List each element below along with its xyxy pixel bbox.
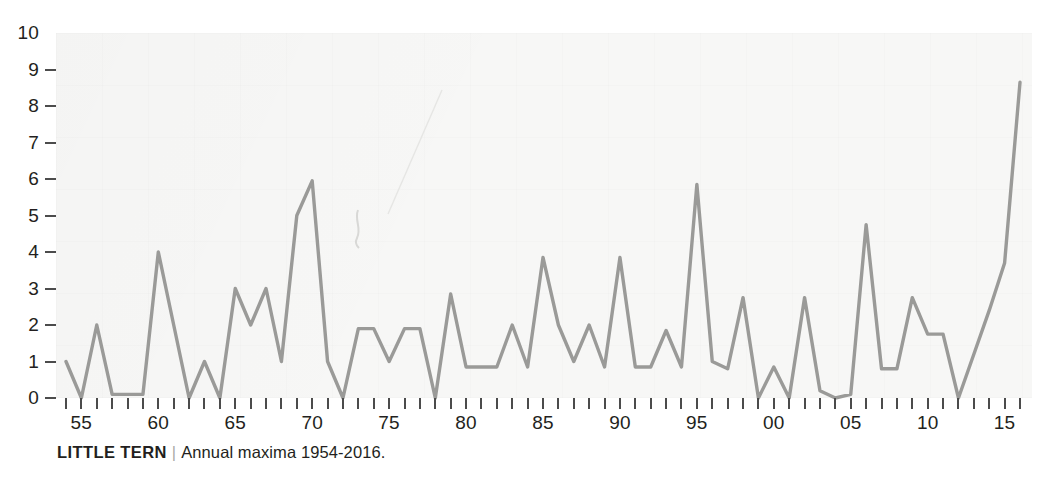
- little-tern-annual-maxima-figure: 109876543210 55606570758085909500051015 …: [0, 0, 1040, 481]
- y-axis-tick-dash: [45, 215, 56, 217]
- x-axis: 55606570758085909500051015: [56, 398, 1032, 438]
- y-axis-tick-8: 8: [28, 97, 56, 115]
- x-axis-label-15: 15: [994, 412, 1016, 434]
- x-axis-tick-2010: [927, 398, 929, 409]
- x-axis-tick-1959: [142, 398, 144, 409]
- x-axis-tick-1958: [127, 398, 129, 409]
- x-axis-tick-2008: [896, 398, 898, 409]
- x-axis-tick-1999: [757, 398, 759, 409]
- plot-area: [56, 33, 1032, 398]
- x-axis-tick-1957: [111, 398, 113, 409]
- y-axis-tick-dash: [45, 397, 56, 399]
- x-axis-tick-1954: [65, 398, 67, 409]
- x-axis-label-00: 00: [763, 412, 785, 434]
- x-axis-tick-1983: [511, 398, 513, 409]
- x-axis-tick-1992: [650, 398, 652, 409]
- x-axis-tick-1962: [188, 398, 190, 409]
- y-axis-tick-dash: [45, 69, 56, 71]
- y-axis-tick-label: 8: [28, 97, 39, 115]
- x-axis-tick-2015: [1004, 398, 1006, 409]
- x-axis-tick-1991: [634, 398, 636, 409]
- y-axis-tick-5: 5: [28, 207, 56, 225]
- x-axis-tick-1976: [404, 398, 406, 409]
- x-axis-tick-2001: [788, 398, 790, 409]
- x-axis-tick-1972: [342, 398, 344, 409]
- x-axis-tick-1988: [588, 398, 590, 409]
- y-axis-tick-1: 1: [28, 353, 56, 371]
- y-axis-tick-label: 1: [28, 353, 39, 371]
- x-axis-tick-1973: [357, 398, 359, 409]
- y-axis-tick-7: 7: [28, 134, 56, 152]
- y-axis-tick-4: 4: [28, 243, 56, 261]
- y-axis-tick-9: 9: [28, 61, 56, 79]
- x-axis-tick-1989: [604, 398, 606, 409]
- x-axis-tick-1955: [80, 398, 82, 409]
- y-axis-tick-dash: [45, 32, 56, 34]
- x-axis-tick-1960: [157, 398, 159, 409]
- y-axis-tick-3: 3: [28, 280, 56, 298]
- y-axis-tick-label: 5: [28, 207, 39, 225]
- x-axis-tick-1977: [419, 398, 421, 409]
- x-axis-tick-1965: [234, 398, 236, 409]
- x-axis-label-60: 60: [148, 412, 170, 434]
- x-axis-label-70: 70: [301, 412, 323, 434]
- x-axis-label-85: 85: [532, 412, 554, 434]
- series-line-little-tern: [66, 82, 1020, 398]
- x-axis-tick-2002: [804, 398, 806, 409]
- y-axis-tick-dash: [45, 288, 56, 290]
- x-axis-tick-2016: [1019, 398, 1021, 409]
- x-axis-label-05: 05: [840, 412, 862, 434]
- y-axis-tick-label: 0: [28, 389, 39, 407]
- x-axis-tick-2006: [865, 398, 867, 409]
- x-axis-tick-2007: [881, 398, 883, 409]
- x-axis-tick-1968: [280, 398, 282, 409]
- caption-species: LITTLE TERN: [57, 443, 167, 461]
- x-axis-tick-2011: [942, 398, 944, 409]
- x-axis-tick-1981: [480, 398, 482, 409]
- x-axis-tick-1961: [173, 398, 175, 409]
- y-axis-tick-label: 7: [28, 134, 39, 152]
- x-axis-tick-1956: [96, 398, 98, 409]
- x-axis-tick-1984: [527, 398, 529, 409]
- x-axis-tick-2003: [819, 398, 821, 409]
- x-axis-tick-1966: [250, 398, 252, 409]
- x-axis-tick-1980: [465, 398, 467, 409]
- x-axis-label-95: 95: [686, 412, 708, 434]
- y-axis-tick-label: 10: [17, 24, 39, 42]
- x-axis-label-65: 65: [224, 412, 246, 434]
- x-axis-tick-1970: [311, 398, 313, 409]
- x-axis-tick-1987: [573, 398, 575, 409]
- x-axis-tick-1995: [696, 398, 698, 409]
- x-axis-tick-1998: [742, 398, 744, 409]
- y-axis-tick-label: 2: [28, 316, 39, 334]
- x-axis-tick-1982: [496, 398, 498, 409]
- x-axis-tick-1975: [388, 398, 390, 409]
- x-axis-tick-2012: [957, 398, 959, 409]
- x-axis-label-75: 75: [378, 412, 400, 434]
- x-axis-label-55: 55: [71, 412, 93, 434]
- x-axis-tick-1964: [219, 398, 221, 409]
- x-axis-tick-1993: [665, 398, 667, 409]
- y-axis-tick-6: 6: [28, 170, 56, 188]
- x-axis-tick-1997: [727, 398, 729, 409]
- x-axis-tick-1994: [680, 398, 682, 409]
- y-axis-tick-label: 4: [28, 243, 39, 261]
- y-axis: 109876543210: [0, 0, 56, 481]
- x-axis-label-90: 90: [609, 412, 631, 434]
- x-axis-tick-2000: [773, 398, 775, 409]
- x-axis-tick-2014: [988, 398, 990, 409]
- x-axis-tick-1979: [450, 398, 452, 409]
- caption-description: Annual maxima 1954-2016.: [181, 443, 385, 461]
- y-axis-tick-0: 0: [28, 389, 56, 407]
- x-axis-tick-2005: [850, 398, 852, 409]
- x-axis-tick-1971: [327, 398, 329, 409]
- y-axis-tick-label: 3: [28, 280, 39, 298]
- x-axis-tick-1974: [373, 398, 375, 409]
- y-axis-tick-dash: [45, 105, 56, 107]
- x-axis-tick-1990: [619, 398, 621, 409]
- y-axis-tick-10: 10: [17, 24, 56, 42]
- x-axis-tick-1969: [296, 398, 298, 409]
- y-axis-tick-label: 9: [28, 61, 39, 79]
- figure-caption: LITTLE TERN|Annual maxima 1954-2016.: [57, 443, 385, 462]
- x-axis-tick-1985: [542, 398, 544, 409]
